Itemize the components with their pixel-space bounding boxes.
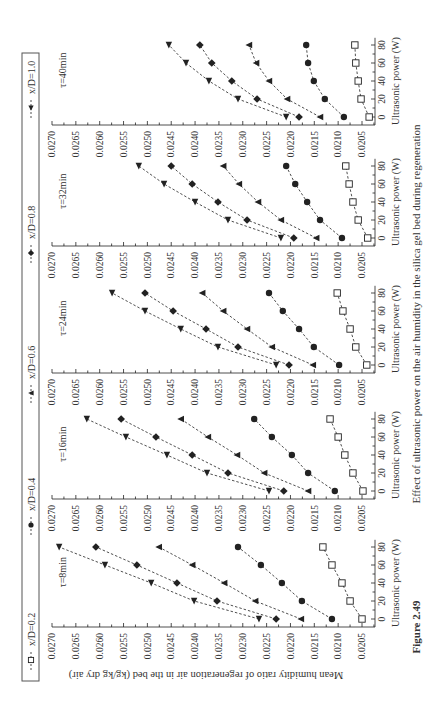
value-tick-label: 0.0265: [71, 379, 81, 405]
series-line: [112, 293, 276, 365]
series-line: [200, 45, 299, 117]
value-tick-label: 0.0235: [214, 633, 224, 659]
chart-panel-16min: 0.02700.02650.02600.02550.02500.02450.02…: [47, 411, 402, 531]
panel-title: τ=24min: [57, 301, 68, 336]
power-tick-label: 60: [377, 432, 387, 442]
power-axis-title: Ultrasonic power (W): [390, 539, 402, 627]
series-line: [249, 45, 320, 117]
value-tick-label: 0.0250: [143, 131, 153, 157]
power-tick-label: 80: [377, 161, 387, 171]
value-tick-label: 0.0205: [357, 379, 367, 405]
value-tick-label: 0.0260: [95, 379, 105, 405]
value-tick-label: 0.0265: [71, 252, 81, 278]
value-tick-label: 0.0210: [333, 379, 343, 405]
rotated-multi-panel-chart: x/D=0.2x/D=0.4x/D=0.6x/D=0.8x/D=1.0 0.02…: [0, 0, 442, 709]
power-tick-label: 0: [377, 235, 387, 240]
value-tick-label: 0.0270: [47, 633, 57, 659]
power-tick-label: 20: [377, 215, 387, 225]
value-tick-label: 0.0240: [190, 252, 200, 278]
value-tick-label: 0.0245: [166, 633, 176, 659]
value-tick-label: 0.0230: [238, 379, 248, 405]
power-tick-label: 80: [377, 414, 387, 424]
value-tick-label: 0.0215: [310, 633, 320, 659]
chart-panel-24min: 0.02700.02650.02600.02550.02500.02450.02…: [47, 285, 402, 405]
value-tick-label: 0.0245: [166, 131, 176, 157]
power-tick-label: 60: [377, 179, 387, 189]
value-tick-label: 0.0265: [71, 633, 81, 659]
value-tick-label: 0.0245: [166, 379, 176, 405]
panel-title: τ=32min: [57, 174, 68, 209]
power-tick-label: 20: [377, 468, 387, 478]
value-tick-label: 0.0255: [119, 379, 129, 405]
series-line: [96, 547, 276, 619]
value-tick-label: 0.0225: [262, 505, 272, 531]
power-tick-label: 0: [377, 362, 387, 367]
value-tick-label: 0.0240: [190, 633, 200, 659]
value-tick-label: 0.0205: [357, 505, 367, 531]
value-tick-label: 0.0255: [119, 633, 129, 659]
value-tick-label: 0.0265: [71, 505, 81, 531]
series-line: [223, 166, 316, 238]
value-tick-label: 0.0260: [95, 252, 105, 278]
chart-panel-32min: 0.02700.02650.02600.02550.02500.02450.02…: [47, 158, 402, 278]
power-tick-label: 80: [377, 40, 387, 50]
power-tick-label: 40: [377, 450, 387, 460]
value-tick-label: 0.0245: [166, 252, 176, 278]
value-tick-label: 0.0215: [310, 379, 320, 405]
panel-title: τ=8min: [57, 557, 68, 587]
power-tick-label: 0: [377, 114, 387, 119]
legend-label: x/D=0.4: [26, 478, 37, 511]
value-tick-label: 0.0215: [310, 505, 320, 531]
value-tick-label: 0.0225: [262, 379, 272, 405]
value-tick-label: 0.0230: [238, 131, 248, 157]
power-axis-title: Ultrasonic power (W): [390, 285, 402, 373]
value-tick-label: 0.0250: [143, 252, 153, 278]
value-tick-label: 0.0270: [47, 131, 57, 157]
power-tick-label: 60: [377, 58, 387, 68]
power-tick-label: 40: [377, 578, 387, 588]
value-tick-label: 0.0210: [333, 633, 343, 659]
value-tick-label: 0.0255: [119, 131, 129, 157]
panel-title: τ=16min: [57, 427, 68, 462]
power-tick-label: 20: [377, 342, 387, 352]
power-axis-title: Ultrasonic power (W): [390, 411, 402, 499]
value-tick-label: 0.0260: [95, 633, 105, 659]
y-axis-title: Mean humidity ratio of regeneration air …: [68, 669, 343, 681]
figure-caption: Effect of ultrasonic power on the air hu…: [410, 124, 422, 504]
value-tick-label: 0.0270: [47, 252, 57, 278]
figure: x/D=0.2x/D=0.4x/D=0.6x/D=0.8x/D=1.0 0.02…: [0, 0, 442, 709]
legend-label: x/D=0.2: [26, 613, 37, 646]
value-tick-label: 0.0240: [190, 505, 200, 531]
value-tick-label: 0.0225: [262, 131, 272, 157]
value-tick-label: 0.0270: [47, 379, 57, 405]
value-tick-label: 0.0255: [119, 505, 129, 531]
value-tick-label: 0.0240: [190, 131, 200, 157]
value-tick-label: 0.0220: [286, 379, 296, 405]
series-line: [346, 166, 368, 238]
legend: x/D=0.2x/D=0.4x/D=0.6x/D=0.8x/D=1.0: [22, 53, 39, 681]
power-tick-label: 0: [377, 488, 387, 493]
value-tick-label: 0.0220: [286, 505, 296, 531]
value-tick-label: 0.0220: [286, 252, 296, 278]
power-tick-label: 20: [377, 94, 387, 104]
value-tick-label: 0.0205: [357, 131, 367, 157]
series-line: [145, 293, 289, 365]
power-tick-label: 80: [377, 542, 387, 552]
series-line: [59, 547, 259, 619]
power-axis-title: Ultrasonic power (W): [390, 37, 402, 125]
value-tick-label: 0.0215: [310, 252, 320, 278]
value-tick-label: 0.0255: [119, 252, 129, 278]
chart-panel-8min: 0.02700.02650.02600.02550.02500.02450.02…: [47, 539, 402, 659]
value-tick-label: 0.0210: [333, 505, 343, 531]
value-tick-label: 0.0250: [143, 379, 153, 405]
figure-number: Figure 2.49: [410, 600, 422, 653]
value-tick-label: 0.0250: [143, 633, 153, 659]
value-tick-label: 0.0260: [95, 131, 105, 157]
value-tick-label: 0.0205: [357, 633, 367, 659]
value-tick-label: 0.0205: [357, 252, 367, 278]
series-line: [121, 419, 284, 491]
power-tick-label: 20: [377, 596, 387, 606]
value-tick-label: 0.0270: [47, 505, 57, 531]
legend-label: x/D=0.8: [26, 206, 37, 239]
value-tick-label: 0.0215: [310, 131, 320, 157]
